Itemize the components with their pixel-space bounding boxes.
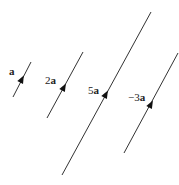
vector-minus-3a: −3a [124,53,178,153]
vector-label: −3a [128,91,146,103]
vector-label: 2a [45,74,57,86]
vector-label: 5a [88,84,100,96]
arrowhead-down-icon [146,101,153,110]
vector-scalar-multiples-diagram: a 2a 5a −3a [0,0,179,185]
vector-a: a [9,62,31,97]
vector-label: a [9,65,15,77]
arrowhead-up-icon [101,91,108,100]
vector-2a: 2a [45,52,83,118]
arrowhead-up-icon [59,84,66,93]
arrowhead-up-icon [17,75,24,84]
